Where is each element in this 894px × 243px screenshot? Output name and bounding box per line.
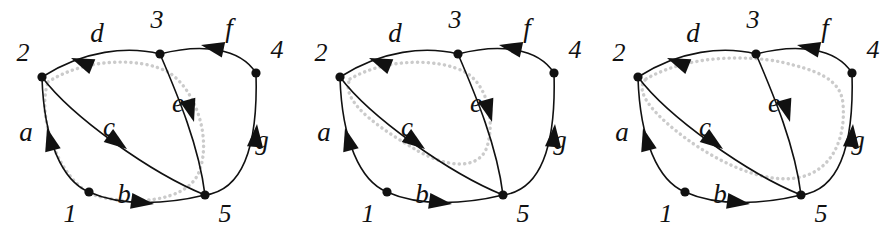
node-label-3: 3 — [746, 5, 760, 34]
node-label-1: 1 — [660, 199, 673, 228]
arrowhead-a — [337, 126, 358, 152]
edge-label-f: f — [821, 13, 832, 43]
edge-f — [458, 48, 554, 73]
node-2 — [335, 72, 344, 81]
node-5 — [498, 190, 507, 199]
edge-label-e: e — [172, 88, 184, 118]
node-1 — [84, 187, 93, 196]
node-label-3: 3 — [448, 5, 462, 34]
edge-label-b: b — [713, 179, 727, 209]
graph-panel-1: abcdefg12345 — [0, 0, 298, 243]
node-label-3: 3 — [150, 5, 164, 34]
node-label-5: 5 — [815, 199, 828, 228]
edge-e — [458, 54, 503, 195]
edge-label-c: c — [401, 112, 413, 142]
graph-canvas-1: abcdefg12345 — [0, 0, 298, 243]
node-1 — [680, 187, 689, 196]
edge-label-g: g — [851, 125, 865, 155]
edge-label-f: f — [225, 13, 236, 43]
edge-label-g: g — [553, 125, 567, 155]
arrowhead-f — [497, 37, 523, 57]
node-4 — [549, 68, 558, 77]
node-3 — [453, 49, 462, 58]
node-1 — [382, 187, 391, 196]
arrowhead-a — [635, 126, 656, 152]
node-3 — [751, 49, 760, 58]
graph-figure: abcdefg12345abcdefg12345abcdefg12345 — [0, 0, 894, 243]
edge-label-a: a — [19, 117, 33, 147]
node-label-1: 1 — [362, 199, 375, 228]
node-label-4: 4 — [569, 35, 582, 64]
graph-canvas-3: abcdefg12345 — [596, 0, 894, 243]
node-5 — [796, 190, 805, 199]
graph-panel-3: abcdefg12345 — [596, 0, 894, 243]
node-label-5: 5 — [517, 199, 530, 228]
node-label-2: 2 — [17, 38, 30, 67]
node-3 — [155, 49, 164, 58]
node-label-4: 4 — [271, 35, 284, 64]
edge-label-c: c — [699, 112, 711, 142]
node-label-4: 4 — [867, 35, 880, 64]
edge-label-d: d — [686, 18, 700, 48]
node-5 — [200, 190, 209, 199]
edge-label-e: e — [470, 88, 482, 118]
node-label-2: 2 — [315, 38, 328, 67]
edge-g — [503, 73, 554, 195]
edge-label-a: a — [615, 117, 629, 147]
node-4 — [251, 68, 260, 77]
arrowhead-a — [39, 126, 60, 152]
node-label-5: 5 — [219, 199, 232, 228]
edge-e — [756, 54, 801, 195]
edge-label-g: g — [255, 125, 269, 155]
graph-panel-2: abcdefg12345 — [298, 0, 596, 243]
highlighted-cycle-path — [348, 62, 490, 164]
arrowhead-f — [795, 37, 821, 57]
highlighted-cycle-path — [642, 58, 843, 179]
edge-label-d: d — [388, 18, 402, 48]
node-label-1: 1 — [64, 199, 77, 228]
edge-label-b: b — [117, 179, 131, 209]
edge-label-a: a — [317, 117, 331, 147]
node-2 — [37, 72, 46, 81]
edge-f — [160, 48, 256, 73]
node-label-2: 2 — [613, 38, 626, 67]
edge-label-b: b — [415, 179, 429, 209]
node-4 — [847, 68, 856, 77]
arrowhead-f — [199, 37, 225, 57]
node-2 — [633, 72, 642, 81]
edge-label-d: d — [90, 18, 104, 48]
edge-label-f: f — [523, 13, 534, 43]
edge-g — [801, 73, 852, 195]
edge-label-c: c — [103, 112, 115, 142]
graph-canvas-2: abcdefg12345 — [298, 0, 596, 243]
edge-g — [205, 73, 256, 195]
edge-label-e: e — [768, 88, 780, 118]
